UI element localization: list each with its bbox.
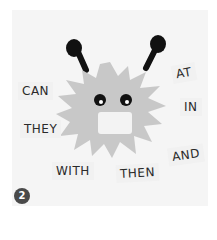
word-card-in: IN (180, 98, 202, 116)
step-number-badge: 2 (14, 188, 30, 204)
eye-left (94, 94, 106, 106)
word-card-they: THEY (20, 120, 61, 138)
eye-right (120, 94, 132, 106)
antenna-left (66, 39, 86, 70)
word-card-with: WITH (52, 162, 94, 180)
monster-body (56, 62, 166, 158)
monster-mouth (98, 112, 132, 134)
word-card-can: CAN (18, 82, 53, 100)
word-card-then: THEN (116, 163, 160, 183)
antenna-right (146, 35, 166, 68)
